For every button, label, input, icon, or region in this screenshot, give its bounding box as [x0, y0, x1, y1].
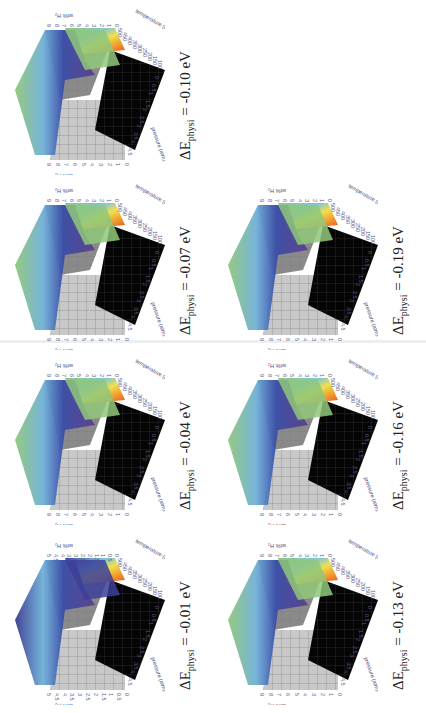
svg-text:2: 2 — [312, 554, 318, 557]
svg-text:9: 9 — [259, 199, 265, 202]
svg-text:3: 3 — [304, 199, 310, 202]
svg-text:wt% H₂: wt% H₂ — [55, 173, 74, 175]
svg-text:3.5: 3.5 — [346, 482, 352, 490]
svg-text:0: 0 — [114, 554, 120, 557]
svg-text:3: 3 — [311, 693, 317, 696]
svg-text:5: 5 — [76, 24, 82, 27]
svg-text:4.5: 4.5 — [127, 498, 133, 506]
svg-text:5: 5 — [81, 513, 87, 516]
svg-text:1: 1 — [328, 513, 334, 516]
svg-text:temperature (K): temperature (K) — [135, 358, 166, 383]
svg-text:7: 7 — [61, 199, 67, 202]
svg-text:0: 0 — [367, 251, 373, 254]
svg-text:8: 8 — [55, 513, 61, 516]
svg-text:pressure (atm): pressure (atm) — [150, 126, 165, 162]
svg-text:9: 9 — [46, 163, 52, 166]
svg-text:1: 1 — [115, 338, 121, 341]
caption-value: = -0.13 eV — [390, 581, 406, 649]
svg-text:6: 6 — [72, 513, 78, 516]
svg-text:2.5: 2.5 — [139, 291, 145, 299]
svg-text:4.5: 4.5 — [127, 148, 133, 156]
svg-text:0: 0 — [124, 163, 130, 166]
svg-text:0: 0 — [114, 24, 120, 27]
svg-text:7: 7 — [63, 163, 69, 166]
svg-text:8: 8 — [267, 199, 273, 202]
svg-text:0: 0 — [337, 513, 343, 516]
svg-text:4.5: 4.5 — [340, 323, 346, 331]
svg-text:3.5: 3.5 — [69, 693, 75, 701]
svg-text:1.5: 1.5 — [94, 554, 100, 562]
svg-text:5: 5 — [46, 554, 52, 557]
svg-text:5: 5 — [76, 199, 82, 202]
svg-text:1.5: 1.5 — [101, 693, 107, 701]
svg-text:7: 7 — [63, 338, 69, 341]
svg-text:5: 5 — [289, 554, 295, 557]
svg-text:8: 8 — [55, 163, 61, 166]
svg-text:pressure (atm): pressure (atm) — [150, 476, 165, 512]
svg-text:3: 3 — [311, 513, 317, 516]
svg-text:2: 2 — [320, 338, 326, 341]
svg-text:1: 1 — [148, 622, 154, 625]
svg-text:temperature (K): temperature (K) — [135, 538, 166, 563]
caption-value: = -0.16 eV — [390, 401, 406, 469]
svg-text:1: 1 — [106, 24, 112, 27]
svg-text:8: 8 — [267, 374, 273, 377]
svg-text:3.5: 3.5 — [66, 554, 72, 562]
svg-text:2.5: 2.5 — [139, 116, 145, 124]
svg-text:1.5: 1.5 — [145, 450, 151, 458]
caption-value: = -0.07 eV — [177, 226, 193, 294]
svg-text:2: 2 — [142, 283, 148, 286]
svg-text:9: 9 — [259, 554, 265, 557]
svg-text:2: 2 — [107, 338, 113, 341]
svg-text:5: 5 — [294, 693, 300, 696]
svg-text:4: 4 — [130, 315, 136, 318]
svg-text:3.5: 3.5 — [346, 307, 352, 315]
svg-text:temperature (K): temperature (K) — [348, 183, 379, 208]
svg-text:2.5: 2.5 — [80, 554, 86, 562]
svg-text:2: 2 — [355, 638, 361, 641]
svg-text:8: 8 — [54, 199, 60, 202]
svg-text:0.5: 0.5 — [107, 554, 113, 562]
svg-text:0: 0 — [367, 606, 373, 609]
svg-text:1.5: 1.5 — [145, 630, 151, 638]
svg-text:2.5: 2.5 — [352, 291, 358, 299]
caption-value: = -0.04 eV — [177, 401, 193, 469]
svg-text:4: 4 — [89, 338, 95, 341]
caption-symbol: ΔE — [177, 141, 193, 160]
svg-text:0: 0 — [124, 513, 130, 516]
svg-text:wt% H₂: wt% H₂ — [55, 543, 74, 549]
svg-text:4: 4 — [130, 490, 136, 493]
svg-text:3: 3 — [98, 338, 104, 341]
svg-text:9: 9 — [46, 24, 52, 27]
svg-text:0: 0 — [327, 374, 333, 377]
svg-text:6: 6 — [285, 513, 291, 516]
svg-text:pressure (atm): pressure (atm) — [363, 301, 378, 337]
svg-text:4: 4 — [84, 199, 90, 202]
svg-text:wt% H₂: wt% H₂ — [268, 703, 287, 705]
plot-panel-d: 9876543210 9876543210 500450400350300250… — [5, 0, 165, 175]
svg-text:2: 2 — [107, 163, 113, 166]
svg-text:8: 8 — [268, 693, 274, 696]
panel-caption: ΔEphysi = -0.13 eV — [390, 581, 409, 690]
panel-caption: ΔEphysi = -0.19 eV — [390, 226, 409, 335]
svg-text:wt% H₂: wt% H₂ — [268, 363, 287, 369]
svg-text:wt% H₂: wt% H₂ — [268, 523, 287, 525]
svg-text:1: 1 — [328, 693, 334, 696]
svg-text:0.5: 0.5 — [151, 434, 157, 442]
svg-text:5: 5 — [289, 199, 295, 202]
svg-text:2: 2 — [355, 458, 361, 461]
surface-plot: 9876543210 9876543210 500450400350300250… — [218, 350, 378, 525]
svg-text:2: 2 — [87, 554, 93, 557]
svg-text:100: 100 — [370, 410, 376, 419]
svg-text:1: 1 — [319, 199, 325, 202]
svg-text:temperature (K): temperature (K) — [348, 358, 379, 383]
svg-text:100: 100 — [370, 235, 376, 244]
svg-text:0: 0 — [154, 426, 160, 429]
caption-symbol: ΔE — [390, 671, 406, 690]
caption-value: = -0.19 eV — [390, 226, 406, 294]
svg-text:1.5: 1.5 — [358, 450, 364, 458]
svg-text:2: 2 — [107, 513, 113, 516]
svg-text:2.5: 2.5 — [139, 646, 145, 654]
caption-subscript: physi — [398, 295, 409, 317]
panel-caption: ΔEphysi = -0.07 eV — [177, 226, 196, 335]
